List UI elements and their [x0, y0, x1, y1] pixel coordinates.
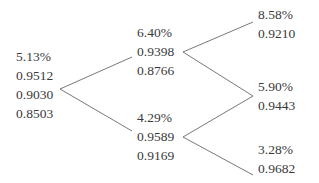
edge-root-down: [60, 89, 132, 131]
root-rate: 5.13%: [16, 47, 53, 66]
up-rate: 6.40%: [137, 23, 174, 42]
down-rate: 4.29%: [137, 108, 174, 127]
updown-rate: 5.90%: [258, 77, 295, 96]
node-updown: 5.90% 0.9443: [258, 77, 295, 115]
downdown-rate: 3.28%: [258, 140, 295, 159]
edge-down-updown: [183, 96, 253, 137]
root-value-3: 0.8503: [16, 104, 53, 123]
node-upup: 8.58% 0.9210: [258, 5, 295, 43]
node-down: 4.29% 0.9589 0.9169: [137, 108, 174, 165]
edge-up-upup: [183, 22, 253, 52]
updown-value-1: 0.9443: [258, 96, 295, 115]
upup-rate: 8.58%: [258, 5, 295, 24]
down-value-1: 0.9589: [137, 127, 174, 146]
edge-up-updown: [183, 52, 253, 96]
root-value-2: 0.9030: [16, 85, 53, 104]
root-value-1: 0.9512: [16, 66, 53, 85]
up-value-2: 0.8766: [137, 61, 174, 80]
node-root: 5.13% 0.9512 0.9030 0.8503: [16, 47, 53, 123]
edge-root-up: [60, 57, 132, 89]
node-up: 6.40% 0.9398 0.8766: [137, 23, 174, 80]
down-value-2: 0.9169: [137, 146, 174, 165]
downdown-value-1: 0.9682: [258, 159, 295, 178]
up-value-1: 0.9398: [137, 42, 174, 61]
upup-value-1: 0.9210: [258, 24, 295, 43]
edge-down-downdown: [183, 137, 253, 175]
node-downdown: 3.28% 0.9682: [258, 140, 295, 178]
